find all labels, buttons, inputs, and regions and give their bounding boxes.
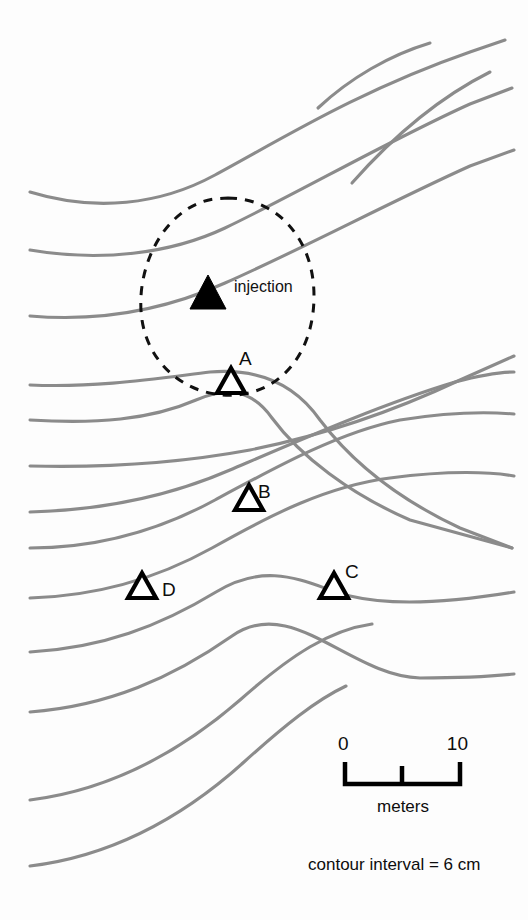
contour-line-group	[30, 40, 514, 866]
map-svg-canvas: injection A B C D 0 10	[0, 0, 528, 920]
contour-line	[30, 88, 512, 255]
contour-line	[30, 576, 514, 652]
scale-bar: 0 10 meters	[338, 733, 468, 816]
well-marker-c[interactable]: C	[320, 561, 359, 598]
scale-bar-start-label: 0	[338, 733, 349, 754]
injection-marker-group[interactable]: injection	[190, 275, 293, 309]
contour-line	[30, 686, 346, 866]
well-triangle-icon[interactable]	[320, 573, 348, 598]
scale-bar-end-label: 10	[447, 733, 468, 754]
well-marker-d[interactable]: D	[128, 573, 176, 600]
well-label-c: C	[345, 561, 359, 582]
scale-bar-unit-label: meters	[377, 797, 429, 816]
injection-triangle-icon[interactable]	[190, 275, 226, 309]
contour-map-figure: injection A B C D 0 10	[0, 0, 528, 920]
contour-line	[318, 43, 430, 108]
contour-interval-caption: contour interval = 6 cm	[308, 855, 480, 874]
well-label-b: B	[258, 481, 271, 502]
contour-line	[30, 371, 512, 548]
contour-line	[30, 624, 514, 712]
well-label-d: D	[162, 579, 176, 600]
contour-line	[30, 473, 514, 599]
contour-line	[30, 624, 372, 800]
injection-label: injection	[234, 278, 293, 295]
contour-line	[30, 372, 514, 512]
well-label-a: A	[239, 348, 252, 369]
contour-line	[30, 356, 514, 466]
